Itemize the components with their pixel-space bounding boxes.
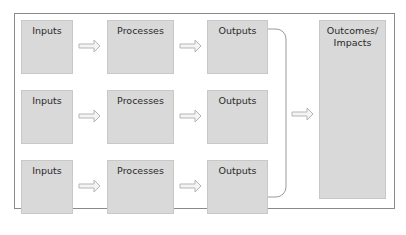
arrow-right-icon xyxy=(79,40,100,52)
arrow-right-icon xyxy=(79,110,100,122)
arrow-right-icon xyxy=(180,180,201,192)
arrow-right-icon xyxy=(180,110,201,122)
connectors xyxy=(0,0,406,235)
arrow-right-icon xyxy=(292,108,313,120)
bracket-connector xyxy=(268,29,286,197)
arrow-right-icon xyxy=(180,40,201,52)
arrow-right-icon xyxy=(79,180,100,192)
